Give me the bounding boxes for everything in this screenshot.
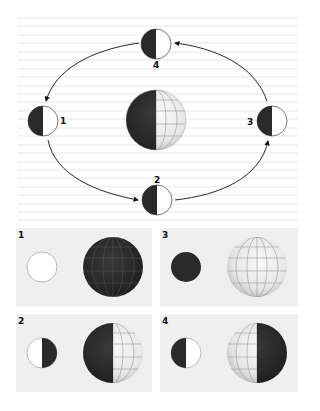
svg-text:2: 2 xyxy=(18,316,24,326)
label-3: 3 xyxy=(247,117,253,127)
label-4: 4 xyxy=(153,60,159,70)
moon-phase-diagram: 4 1 3 2 1 3 2 xyxy=(0,0,320,411)
panel-2: 2 xyxy=(16,314,152,392)
moon-position-4 xyxy=(141,29,171,59)
label-1: 1 xyxy=(60,116,66,126)
label-2: 2 xyxy=(154,175,160,185)
svg-text:1: 1 xyxy=(18,230,24,240)
panel-3: 3 xyxy=(160,228,298,306)
earth-center xyxy=(126,90,186,150)
panel-4: 4 xyxy=(160,314,298,392)
svg-text:3: 3 xyxy=(162,230,168,240)
moon-position-1 xyxy=(28,106,58,136)
panel-1: 1 xyxy=(16,228,152,306)
moon-position-3 xyxy=(257,106,287,136)
svg-text:4: 4 xyxy=(162,316,168,326)
moon-position-2 xyxy=(142,185,172,215)
